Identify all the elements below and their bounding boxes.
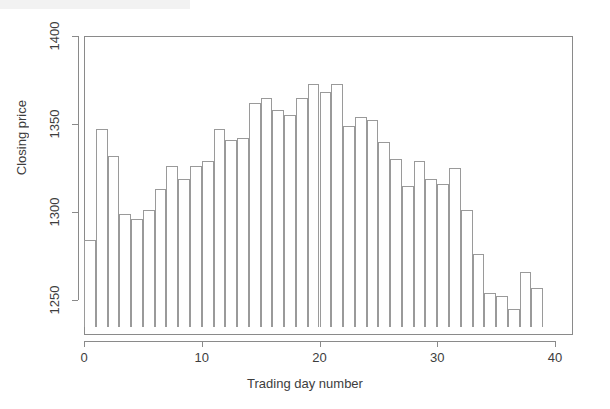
bar xyxy=(249,103,261,327)
x-axis-tick xyxy=(555,341,556,347)
bar xyxy=(272,110,284,327)
bar xyxy=(284,115,296,327)
bar xyxy=(355,117,367,327)
bars-layer xyxy=(84,36,573,335)
bar xyxy=(190,166,202,327)
bar xyxy=(296,98,308,327)
bar xyxy=(473,254,485,327)
scan-artifact-band xyxy=(0,0,190,9)
bar xyxy=(520,272,532,327)
bar xyxy=(461,210,473,327)
bar xyxy=(202,161,214,327)
x-axis-tick-label: 10 xyxy=(182,350,222,365)
x-axis-tick xyxy=(84,341,85,347)
x-axis-tick xyxy=(437,341,438,347)
bar xyxy=(449,168,461,327)
bar xyxy=(331,84,343,327)
y-axis-tick-label: 1300 xyxy=(38,196,70,228)
bar xyxy=(343,126,355,327)
bar xyxy=(108,156,120,327)
y-axis-title: Closing price xyxy=(14,100,34,175)
bar xyxy=(531,288,543,327)
bar xyxy=(484,293,496,327)
x-axis-title: Trading day number xyxy=(0,376,610,391)
bar xyxy=(308,84,320,327)
y-axis-tick xyxy=(72,212,78,213)
x-axis-tick xyxy=(202,341,203,347)
bar xyxy=(225,140,237,327)
y-axis-tick-label: 1250 xyxy=(38,284,70,316)
bar xyxy=(320,92,332,327)
bar xyxy=(390,159,402,327)
x-axis-tick-label: 30 xyxy=(417,350,457,365)
y-axis-tick xyxy=(72,300,78,301)
bar xyxy=(96,129,108,327)
bar xyxy=(261,98,273,327)
bar xyxy=(84,240,96,327)
bar xyxy=(119,214,131,327)
bar xyxy=(143,210,155,327)
y-axis-tick-label: 1400 xyxy=(38,20,70,52)
x-axis-tick-label: 40 xyxy=(535,350,575,365)
bar xyxy=(131,219,143,327)
x-axis-tick-label: 20 xyxy=(300,350,340,365)
bar xyxy=(378,142,390,327)
y-axis-tick xyxy=(72,124,78,125)
bar xyxy=(178,179,190,327)
bar xyxy=(496,296,508,327)
chart-page: 1250130013501400 010203040 Closing price… xyxy=(0,0,610,409)
y-axis-tick-label: 1350 xyxy=(38,108,70,140)
x-axis-tick-label: 0 xyxy=(64,350,104,365)
bar xyxy=(214,129,226,327)
bar xyxy=(402,186,414,327)
y-axis-line xyxy=(78,36,79,300)
y-axis-tick xyxy=(72,36,78,37)
bar xyxy=(414,161,426,327)
bar xyxy=(437,184,449,327)
bar xyxy=(166,166,178,327)
x-axis-tick xyxy=(320,341,321,347)
bar xyxy=(367,120,379,327)
bar xyxy=(425,179,437,327)
bar xyxy=(155,189,167,327)
bar xyxy=(508,309,520,327)
bar xyxy=(237,138,249,327)
